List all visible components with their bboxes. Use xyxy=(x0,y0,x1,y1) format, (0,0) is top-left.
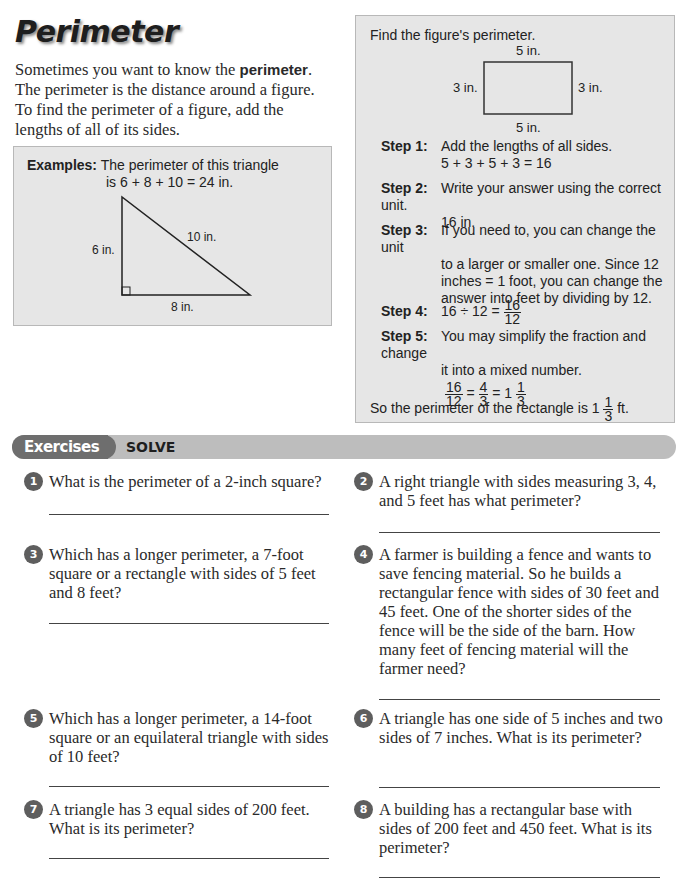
exercise-text: A triangle has 3 equal sides of 200 feet… xyxy=(49,800,310,838)
intro-term: perimeter xyxy=(240,61,308,78)
exercise-text: A triangle has one side of 5 inches and … xyxy=(379,709,663,747)
worked-example-box: Find the figure's perimeter. 5 in. 5 in.… xyxy=(355,15,675,423)
answer-line-6[interactable] xyxy=(379,787,660,788)
step-label: Step 3: xyxy=(381,222,441,239)
step-text: Add the lengths of all sides. xyxy=(441,138,612,154)
exercise-number: 4 xyxy=(354,545,373,564)
step-label: Step 4: xyxy=(381,303,441,320)
exercise-text: Which has a longer perimeter, a 14-foot … xyxy=(49,709,329,766)
step-text: 16 ÷ 12 = xyxy=(441,303,500,319)
step-1: Step 1:Add the lengths of all sides. 5 +… xyxy=(381,138,671,172)
step-extra: 5 + 3 + 5 + 3 = 16 xyxy=(381,155,671,172)
denominator: 3 xyxy=(603,410,613,423)
exercise-5: 5 Which has a longer perimeter, a 14-foo… xyxy=(49,709,339,766)
exercise-4: 4 A farmer is building a fence and wants… xyxy=(379,545,669,678)
exercise-7: 7 A triangle has 3 equal sides of 200 fe… xyxy=(49,800,339,838)
step-4: Step 4:16 ÷ 12 = 1612 xyxy=(381,299,671,326)
exercise-8: 8 A building has a rectangular base with… xyxy=(379,800,669,857)
step-text: it into a mixed number. xyxy=(381,362,671,379)
step-label: Step 2: xyxy=(381,180,441,197)
rect-top-label: 5 in. xyxy=(516,43,541,58)
exercise-number: 3 xyxy=(24,545,43,564)
exercise-number: 8 xyxy=(354,800,373,819)
exercises-pill: Exercises xyxy=(12,435,108,459)
exercise-6: 6 A triangle has one side of 5 inches an… xyxy=(379,709,669,747)
triangle-side-b: 8 in. xyxy=(171,300,194,314)
final-text: So the perimeter of the rectangle is 1 xyxy=(370,400,600,416)
exercise-text: Which has a longer perimeter, a 7-foot s… xyxy=(49,545,316,602)
exercise-text: A farmer is building a fence and wants t… xyxy=(379,545,659,678)
step-3: Step 3:If you need to, you can change th… xyxy=(381,222,671,307)
answer-line-3[interactable] xyxy=(49,623,329,624)
exercise-text: What is the perimeter of a 2-inch square… xyxy=(49,472,322,491)
triangle-side-a: 6 in. xyxy=(92,243,115,257)
fraction: 13 xyxy=(603,396,613,423)
rect-bottom-label: 5 in. xyxy=(516,120,541,135)
exercise-3: 3 Which has a longer perimeter, a 7-foot… xyxy=(49,545,339,602)
step-label: Step 5: xyxy=(381,328,441,345)
exercises-banner: Exercises SOLVE xyxy=(12,435,676,459)
final-unit: ft. xyxy=(617,400,629,416)
exercise-number: 5 xyxy=(24,709,43,728)
answer-line-2[interactable] xyxy=(379,532,660,533)
answer-line-1[interactable] xyxy=(49,514,329,515)
exercise-text: A building has a rectangular base with s… xyxy=(379,800,652,857)
triangle-hypotenuse: 10 in. xyxy=(187,230,216,244)
exercise-number: 2 xyxy=(354,472,373,491)
exercise-number: 6 xyxy=(354,709,373,728)
step-label: Step 1: xyxy=(381,138,441,155)
rect-left-label: 3 in. xyxy=(453,80,478,95)
intro-paragraph: Sometimes you want to know the perimeter… xyxy=(15,60,335,140)
rect-right-label: 3 in. xyxy=(578,80,603,95)
fraction: 1612 xyxy=(504,299,522,326)
answer-line-5[interactable] xyxy=(49,786,329,787)
denominator: 12 xyxy=(504,313,522,326)
rectangle-figure xyxy=(356,16,676,136)
exercise-number: 1 xyxy=(24,472,43,491)
intro-text: Sometimes you want to know the xyxy=(15,60,240,79)
exercise-2: 2 A right triangle with sides measuring … xyxy=(379,472,674,510)
answer-line-8[interactable] xyxy=(379,877,660,878)
exercise-1: 1 What is the perimeter of a 2-inch squa… xyxy=(49,472,349,491)
answer-line-7[interactable] xyxy=(49,858,329,859)
exercise-text: A right triangle with sides measuring 3,… xyxy=(379,472,656,510)
answer-line-4[interactable] xyxy=(379,699,660,700)
example-box: Examples: The perimeter of this triangle… xyxy=(13,146,332,326)
solve-label: SOLVE xyxy=(126,435,175,459)
final-answer: So the perimeter of the rectangle is 1 1… xyxy=(370,396,629,423)
exercise-number: 7 xyxy=(24,800,43,819)
step-text: inches = 1 foot, you can change the xyxy=(381,273,671,290)
step-text: to a larger or smaller one. Since 12 xyxy=(381,256,671,273)
page-title: Perimeter xyxy=(15,14,178,49)
